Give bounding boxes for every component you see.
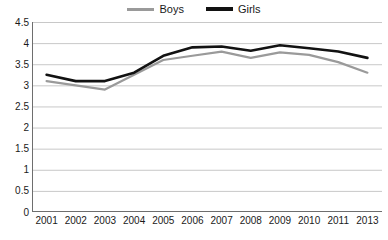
y-axis-label-3: 3 bbox=[23, 81, 29, 91]
y-axis-tick-labels: 00.511.522.533.544.5 bbox=[0, 22, 29, 212]
series-line-girls bbox=[47, 45, 368, 81]
x-axis-label-2007: 2007 bbox=[210, 215, 232, 227]
x-axis-label-2008: 2008 bbox=[240, 215, 262, 227]
series-lines bbox=[47, 45, 368, 89]
x-axis-label-2006: 2006 bbox=[181, 215, 203, 227]
legend-entry-boys[interactable]: Boys bbox=[127, 4, 183, 15]
y-axis-label-4: 4 bbox=[23, 39, 29, 49]
x-axis-label-2011: 2011 bbox=[327, 215, 349, 227]
y-axis-label-0: 0 bbox=[23, 208, 29, 218]
plot-svg bbox=[32, 22, 382, 212]
legend-line-swatch-girls-icon bbox=[206, 7, 233, 11]
x-axis-label-2002: 2002 bbox=[65, 215, 87, 227]
legend-label-girls: Girls bbox=[238, 4, 261, 15]
x-axis-label-2009: 2009 bbox=[269, 215, 291, 227]
line-chart: Boys Girls 00.511.522.533.544.5 20012002… bbox=[0, 0, 388, 240]
y-axis-label-3.5: 3.5 bbox=[15, 60, 29, 70]
y-axis-label-2.5: 2.5 bbox=[15, 102, 29, 112]
legend-label-boys: Boys bbox=[159, 4, 183, 15]
x-axis-label-2010: 2010 bbox=[298, 215, 320, 227]
y-axis-label-0.5: 0.5 bbox=[15, 186, 29, 196]
y-axis-label-4.5: 4.5 bbox=[15, 18, 29, 28]
y-axis-label-2: 2 bbox=[23, 123, 29, 133]
legend-entry-girls[interactable]: Girls bbox=[206, 4, 261, 15]
plot-area bbox=[32, 22, 382, 212]
x-axis-tick-labels: 2001200220032004200520062007200820092010… bbox=[32, 215, 382, 231]
legend-line-swatch-boys-icon bbox=[127, 8, 154, 11]
x-axis-label-2013: 2013 bbox=[356, 215, 378, 227]
x-axis-label-2005: 2005 bbox=[152, 215, 174, 227]
x-axis-label-2003: 2003 bbox=[94, 215, 116, 227]
x-axis-label-2001: 2001 bbox=[35, 215, 57, 227]
y-axis-label-1.5: 1.5 bbox=[15, 144, 29, 154]
series-line-boys bbox=[47, 52, 368, 90]
chart-legend: Boys Girls bbox=[0, 0, 388, 18]
y-axis-label-1: 1 bbox=[23, 165, 29, 175]
x-axis-label-2004: 2004 bbox=[123, 215, 145, 227]
